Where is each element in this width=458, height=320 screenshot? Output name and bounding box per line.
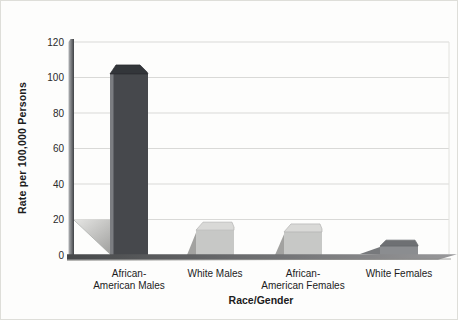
bar-white-males-top-face (196, 222, 234, 230)
y-tick-label-60: 60 (53, 143, 65, 154)
y-tick-label-40: 40 (53, 179, 65, 190)
bar-white-females-top-face (380, 240, 418, 246)
bar-white-males (196, 230, 234, 255)
y-tick-label-120: 120 (47, 37, 64, 48)
category-label-african-american-males: African- (112, 268, 146, 279)
bar-white-males-shadow (187, 230, 197, 255)
y-tick-label-100: 100 (47, 72, 64, 83)
category-label-african-american-females: American Females (261, 280, 344, 291)
y-tick-label-20: 20 (53, 214, 65, 225)
y-axis-line (69, 39, 75, 255)
category-label-african-american-females: African- (286, 268, 320, 279)
bar-african-american-males-left-highlight (110, 73, 114, 255)
y-tick-label-80: 80 (53, 108, 65, 119)
bar-african-american-males (110, 74, 148, 255)
y-tick-label-0: 0 (58, 250, 64, 261)
category-label-white-females: White Females (366, 268, 433, 279)
bar-african-american-males-top-face (110, 65, 148, 74)
category-label-white-males: White Males (187, 268, 242, 279)
bar-african-american-females (284, 232, 322, 255)
x-axis-title: Race/Gender (73, 294, 449, 306)
category-label-african-american-males: American Males (93, 280, 165, 291)
chart-plot-area: 020406080100120African-American MalesWhi… (1, 1, 458, 320)
bar-african-american-females-top-face (284, 224, 322, 232)
bar-african-american-females-shadow (275, 232, 285, 255)
bar-chart-figure: Rate per 100,000 Persons 020406080100120… (0, 0, 458, 320)
bar-white-females (380, 246, 418, 255)
bar-white-females-shadow (360, 246, 382, 255)
